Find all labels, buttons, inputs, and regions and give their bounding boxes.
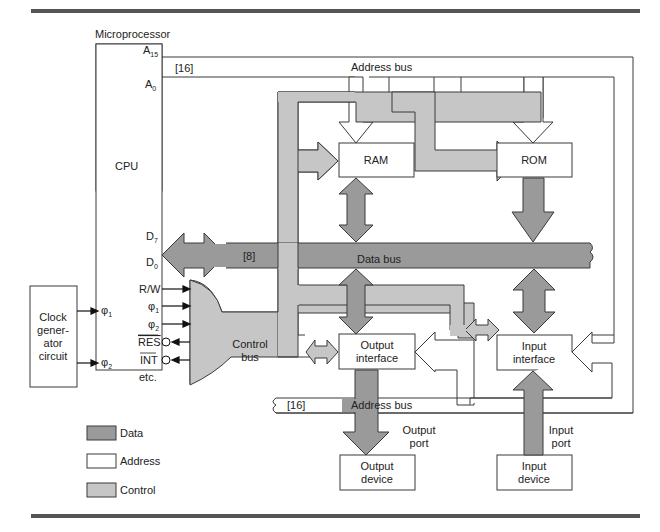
control-bus-label-2: bus bbox=[241, 351, 259, 363]
address-bus-top-label: Address bus bbox=[351, 61, 413, 73]
legend-label-control: Control bbox=[120, 484, 155, 496]
pin-res: RES bbox=[138, 336, 161, 348]
rom-label: ROM bbox=[521, 154, 547, 166]
pin-int: INT bbox=[140, 354, 158, 366]
ram-label: RAM bbox=[364, 154, 388, 166]
control-trunk bbox=[278, 92, 298, 357]
ram-data-arrow bbox=[339, 178, 373, 242]
legend-label-address: Address bbox=[120, 455, 161, 467]
input-interface-label-1: Input bbox=[522, 340, 546, 352]
data-bus-width: [8] bbox=[243, 250, 255, 262]
microprocessor-title: Microprocessor bbox=[95, 28, 171, 40]
ram-control-arrow bbox=[298, 142, 338, 180]
legend-label-data: Data bbox=[120, 427, 144, 439]
control-bus-label-1: Control bbox=[232, 338, 267, 350]
legend-swatch-address bbox=[87, 454, 116, 468]
output-device-label-1: Output bbox=[360, 460, 393, 472]
clock-label-3: ator bbox=[44, 337, 63, 349]
top-rule bbox=[31, 9, 640, 13]
input-port-label-2: port bbox=[552, 437, 571, 449]
rom-data-arrow bbox=[512, 178, 554, 242]
input-interface-data-arrow bbox=[513, 269, 555, 333]
legend-swatch-data bbox=[87, 426, 116, 440]
input-device-label-2: device bbox=[518, 473, 550, 485]
input-interface-label-2: interface bbox=[513, 353, 555, 365]
int-inversion-bubble bbox=[162, 356, 170, 364]
input-device-label-1: Input bbox=[522, 460, 546, 472]
address-bus-bottom-width: [16] bbox=[287, 399, 305, 411]
clock-label-4: circuit bbox=[39, 350, 68, 362]
output-port-label-1: Output bbox=[402, 424, 435, 436]
legend-swatch-control bbox=[87, 483, 116, 497]
output-interface-label-1: Output bbox=[360, 339, 393, 351]
address-bus-bottom-label: Address bus bbox=[351, 399, 413, 411]
output-interface-address-arrow bbox=[415, 332, 474, 405]
output-port-label-2: port bbox=[410, 437, 429, 449]
address-bus-top-width: [16] bbox=[175, 62, 193, 74]
bottom-rule bbox=[31, 514, 640, 518]
control-fan bbox=[190, 280, 278, 385]
pin-etc: etc. bbox=[139, 371, 157, 383]
res-inversion-bubble bbox=[162, 338, 170, 346]
input-port-label-1: Input bbox=[549, 424, 573, 436]
data-bus-label: Data bus bbox=[357, 253, 402, 265]
output-interface-control-arrow bbox=[306, 340, 338, 364]
clock-label-1: Clock bbox=[39, 311, 67, 323]
output-device-label-2: device bbox=[361, 473, 393, 485]
pin-rw: R/W bbox=[139, 283, 161, 295]
output-interface-label-2: interface bbox=[356, 352, 398, 364]
cpu-label: CPU bbox=[115, 160, 138, 172]
microprocessor-system-diagram: Microprocessor CPU A15 A0 D7 D0 R/W φ1 φ… bbox=[0, 0, 660, 532]
clock-label-2: gener- bbox=[37, 324, 69, 336]
